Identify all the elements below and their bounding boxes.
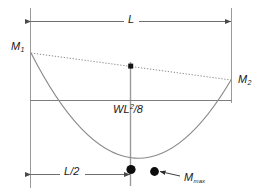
moment-left-symbol: M: [11, 40, 20, 52]
moment-right-symbol: M: [238, 73, 247, 85]
free-moment-label: WL2/8: [113, 104, 143, 115]
moment-right-label: M2: [238, 74, 251, 85]
free-moment-divisor: /8: [134, 103, 143, 115]
max-moment-symbol: M: [184, 171, 193, 183]
moment-left-label: M1: [11, 41, 24, 52]
span-length-label: L: [128, 14, 134, 25]
moment-left-subscript: 1: [21, 46, 25, 53]
diagram-canvas: [0, 0, 262, 196]
max-moment-dot-marker: [150, 167, 159, 176]
moment-right-subscript: 2: [248, 79, 252, 86]
max-moment-label: Mmax: [184, 172, 205, 183]
free-moment-symbol: WL: [113, 103, 130, 115]
half-span-label: L/2: [64, 166, 80, 177]
max-moment-leader-arrow: [160, 172, 180, 177]
midspan-square-marker: [128, 64, 133, 69]
max-moment-subscript: max: [194, 178, 206, 184]
free-moment-exponent: 2: [130, 103, 134, 110]
bending-moment-diagram: L M1 M2 WL2/8 L/2 Mmax: [0, 0, 262, 196]
midspan-dot-marker: [126, 165, 135, 174]
